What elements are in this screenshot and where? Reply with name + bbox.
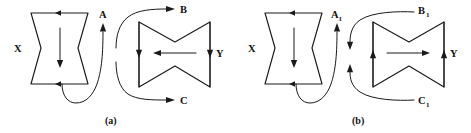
- panel-b-connector-to-a1: [296, 23, 340, 103]
- panel-a-source-top-arrow: [55, 10, 61, 16]
- panel-b-target-shape-y: [373, 22, 444, 87]
- panel-b-target-right-arrow: [441, 22, 447, 87]
- panel-a-connector-to-a: [62, 23, 106, 103]
- figure-canvas: X A: [0, 0, 471, 133]
- panel-a-target-center-arrow: [153, 50, 196, 56]
- panel-b-channel-label-a1: A 1: [331, 9, 343, 23]
- panel-b-target-label: Y: [450, 48, 458, 59]
- panel-a-channel-label-b: B: [180, 4, 187, 15]
- panel-a-caption: (a): [105, 115, 117, 127]
- panel-b-channel-label-b1: B 1: [418, 5, 430, 19]
- figure-container: X A: [0, 0, 471, 133]
- panel-b: X A 1: [248, 5, 458, 127]
- panel-a-target-shape-y: [139, 22, 210, 87]
- panel-b-source-top-arrow: [289, 10, 295, 16]
- panel-b-source-center-arrow: [291, 28, 297, 68]
- panel-a-target-left-arrow: [136, 22, 142, 87]
- panel-b-connector-from-b1: [347, 12, 414, 50]
- panel-a-source-label: X: [14, 43, 22, 54]
- panel-b-channel-label-c1: C 1: [418, 95, 430, 109]
- panel-b-channel-label-b1-base: B: [418, 5, 425, 16]
- panel-b-channel-label-b1-sub: 1: [426, 11, 430, 19]
- panel-a-target-label: Y: [216, 48, 224, 59]
- panel-a-target-right-arrow: [207, 22, 213, 87]
- panel-a-channel-label-a: A: [99, 9, 107, 20]
- panel-a-source-bottom-arrow: [55, 81, 61, 87]
- panel-b-channel-label-a1-sub: 1: [339, 15, 343, 23]
- panel-b-target-left-arrow: [370, 22, 376, 87]
- panel-b-channel-label-c1-base: C: [418, 95, 426, 106]
- panel-a-source-center-arrow: [57, 28, 63, 68]
- panel-a-connector-to-b: [116, 6, 175, 48]
- panel-b-channel-label-c1-sub: 1: [426, 101, 430, 109]
- panel-a: X A: [14, 4, 224, 127]
- panel-b-source-bottom-arrow: [289, 81, 295, 87]
- panel-b-caption: (b): [352, 115, 364, 127]
- panel-b-target-center-arrow: [387, 50, 430, 56]
- panel-a-channel-label-c: C: [180, 95, 188, 106]
- panel-b-source-label: X: [248, 43, 256, 54]
